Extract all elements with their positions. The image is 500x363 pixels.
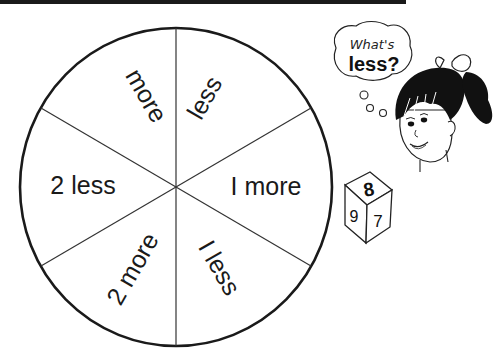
die-right-number: 7	[373, 212, 382, 231]
thought-dot-icon	[367, 105, 374, 112]
spinner[interactable]: less I more I less 2 more 2 less more	[20, 28, 332, 346]
sector-label-2-less: 2 less	[50, 171, 115, 199]
thought-dot-icon	[360, 91, 368, 99]
number-die: 8 9 7	[345, 172, 392, 243]
bubble-text-less: less?	[348, 53, 399, 75]
sector-label-1-more: I more	[231, 172, 302, 200]
thought-dot-icon	[380, 110, 387, 117]
worksheet-illustration: less I more I less 2 more 2 less more Wh…	[0, 0, 500, 363]
girl-illustration-icon	[395, 55, 492, 172]
bubble-text-whats: What's	[350, 37, 395, 52]
die-left-number: 9	[350, 208, 359, 225]
